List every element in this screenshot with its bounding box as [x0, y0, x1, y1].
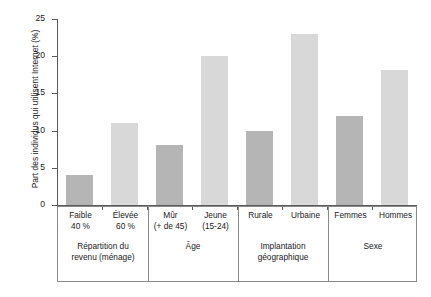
- bar-category-label-line1: Jeune: [193, 210, 238, 221]
- bar-category-label-line2: 60 %: [103, 221, 148, 232]
- bar-category-label: Urbaine: [283, 210, 328, 221]
- group-label-line1: Implantation: [238, 241, 328, 252]
- y-axis-tick-label: 20: [35, 50, 45, 60]
- bar-category-label-line1: Urbaine: [283, 210, 328, 221]
- group-label: Implantationgéographique: [238, 241, 328, 262]
- plot-area: 0510152025: [57, 19, 417, 205]
- bar-category-label-line2: (15-24): [193, 221, 238, 232]
- y-axis-tick: 5: [52, 168, 57, 169]
- bar-chart-figure: Part des individus qui utilisent Interne…: [0, 0, 431, 297]
- bar: [66, 175, 93, 205]
- bar-category-label: Jeune(15-24): [193, 210, 238, 231]
- y-axis-tick: 20: [52, 56, 57, 57]
- group-label: Âge: [148, 241, 238, 252]
- bar-category-label-line1: Femmes: [328, 210, 373, 221]
- bar-category-label-line1: Mûr: [148, 210, 193, 221]
- bar-category-label-line1: Faible: [58, 210, 103, 221]
- bar: [291, 34, 318, 205]
- group-label-line1: Sexe: [328, 241, 418, 252]
- bar-category-label: Faible40 %: [58, 210, 103, 231]
- bar-category-label-line1: Hommes: [373, 210, 418, 221]
- y-axis-tick-label: 10: [35, 125, 45, 135]
- y-axis-tick-label: 15: [35, 87, 45, 97]
- bar-category-label: Hommes: [373, 210, 418, 221]
- y-axis-line: [57, 19, 58, 206]
- bar: [156, 145, 183, 205]
- group-label-line1: Âge: [148, 241, 238, 252]
- bar-category-label-line1: Rurale: [238, 210, 283, 221]
- bar-category-label-line1: Élevée: [103, 210, 148, 221]
- bar: [246, 131, 273, 205]
- bar-category-label-line2: 40 %: [58, 221, 103, 232]
- bar-category-label: Rurale: [238, 210, 283, 221]
- y-axis-tick: 25: [52, 19, 57, 20]
- bar-category-label-line2: (+ de 45): [148, 221, 193, 232]
- group-label-line2: revenu (ménage): [58, 252, 148, 263]
- group-label-line1: Répartition du: [58, 241, 148, 252]
- category-label-box: Faible40 %Élevée60 %Mûr(+ de 45)Jeune(15…: [57, 206, 417, 282]
- y-axis-title: Part des individus qui utilisent Interne…: [30, 9, 40, 209]
- bar-category-label: Élevée60 %: [103, 210, 148, 231]
- bar: [336, 116, 363, 205]
- bar: [201, 56, 228, 205]
- group-label-line2: géographique: [238, 252, 328, 263]
- group-label: Répartition durevenu (ménage): [58, 241, 148, 262]
- y-axis-tick: 15: [52, 93, 57, 94]
- bar: [381, 70, 408, 205]
- y-axis-tick-label: 5: [40, 162, 45, 172]
- y-axis-tick-label: 25: [35, 13, 45, 23]
- y-axis-tick: 10: [52, 131, 57, 132]
- bar-category-label: Femmes: [328, 210, 373, 221]
- y-axis-tick-label: 0: [40, 199, 45, 209]
- bar: [111, 123, 138, 205]
- bar-category-label: Mûr(+ de 45): [148, 210, 193, 231]
- group-label: Sexe: [328, 241, 418, 252]
